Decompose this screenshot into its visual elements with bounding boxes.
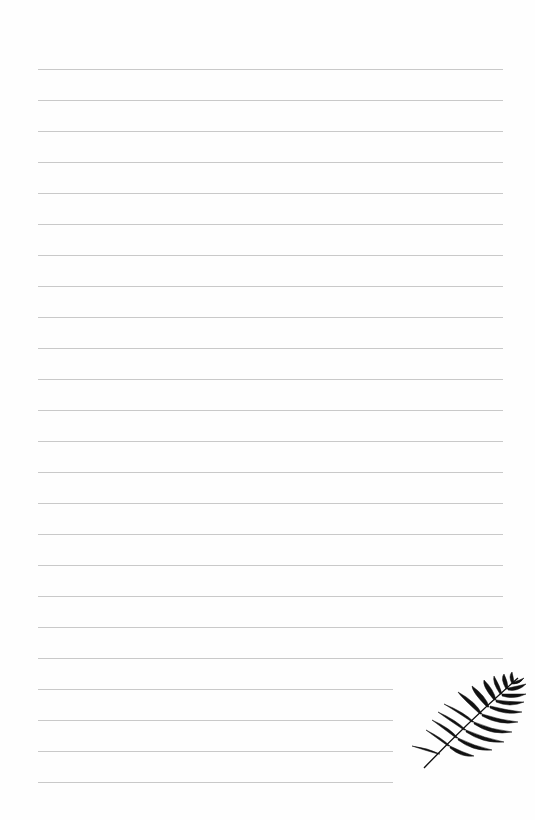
ruled-line [38, 410, 503, 411]
ruled-line [38, 348, 503, 349]
ruled-line [38, 100, 503, 101]
ruled-line [38, 131, 503, 132]
ruled-line [38, 689, 393, 690]
lined-paper [0, 0, 535, 820]
ruled-line [38, 162, 503, 163]
ruled-line [38, 255, 503, 256]
ruled-line [38, 627, 503, 628]
ruled-line [38, 751, 393, 752]
ruled-line [38, 658, 503, 659]
ruled-line [38, 503, 503, 504]
ruled-line [38, 782, 393, 783]
ruled-line [38, 317, 503, 318]
ruled-line [38, 565, 503, 566]
ruled-line [38, 224, 503, 225]
ruled-line [38, 534, 503, 535]
ruled-line [38, 472, 503, 473]
ruled-line [38, 193, 503, 194]
palm-leaf-icon [408, 672, 528, 776]
ruled-line [38, 720, 393, 721]
ruled-line [38, 69, 503, 70]
ruled-line [38, 286, 503, 287]
ruled-line [38, 441, 503, 442]
ruled-line [38, 379, 503, 380]
ruled-line [38, 596, 503, 597]
